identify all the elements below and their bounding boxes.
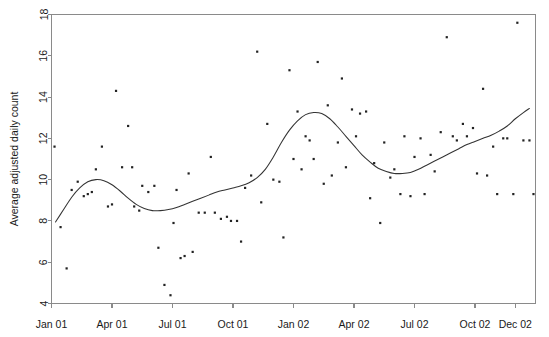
data-point: [419, 137, 421, 139]
data-point: [359, 112, 361, 114]
data-point: [288, 69, 290, 71]
y-tick-label: 4: [38, 300, 50, 306]
y-axis-title: Average adjusted daily count: [8, 92, 20, 227]
data-point: [305, 135, 307, 137]
x-axis: Jan 01Apr 01Jul 01Oct 01Jan 02Apr 02Jul …: [36, 304, 532, 330]
trend-curve: [56, 108, 530, 222]
data-point: [379, 222, 381, 224]
data-point: [133, 205, 135, 207]
data-point: [138, 210, 140, 212]
data-point: [153, 185, 155, 187]
x-tick-label: Jul 01: [158, 318, 186, 330]
data-point: [244, 187, 246, 189]
data-point: [331, 174, 333, 176]
data-point: [452, 135, 454, 137]
data-point: [53, 146, 55, 148]
data-point: [351, 108, 353, 110]
y-tick-label: 8: [38, 218, 50, 224]
x-tick-label: Jan 01: [36, 318, 68, 330]
data-point: [532, 193, 534, 195]
data-point: [226, 216, 228, 218]
x-tick-label: Dec 02: [499, 318, 532, 330]
plot-root: 4681012141618Average adjusted daily coun…: [8, 9, 536, 330]
data-point: [313, 158, 315, 160]
data-point: [59, 226, 61, 228]
data-point: [300, 168, 302, 170]
data-point: [272, 179, 274, 181]
data-point: [476, 172, 478, 174]
x-tick-label: Oct 02: [460, 318, 491, 330]
data-point: [87, 193, 89, 195]
data-point: [169, 294, 171, 296]
chart-figure: 4681012141618Average adjusted daily coun…: [0, 0, 549, 337]
data-point: [141, 185, 143, 187]
y-axis: 4681012141618: [38, 9, 52, 307]
data-point: [317, 61, 319, 63]
data-point: [292, 158, 294, 160]
data-point: [266, 123, 268, 125]
data-point: [210, 156, 212, 158]
data-point: [409, 195, 411, 197]
data-point: [337, 141, 339, 143]
data-point: [236, 220, 238, 222]
y-tick-label: 16: [38, 50, 50, 62]
data-point: [198, 212, 200, 214]
data-point: [512, 193, 514, 195]
data-point: [456, 139, 458, 141]
data-point: [260, 201, 262, 203]
data-points: [53, 22, 534, 297]
y-tick-label: 18: [38, 9, 50, 21]
data-point: [163, 284, 165, 286]
data-point: [434, 170, 436, 172]
data-point: [230, 220, 232, 222]
data-point: [369, 197, 371, 199]
data-point: [403, 135, 405, 137]
data-point: [115, 90, 117, 92]
data-point: [492, 146, 494, 148]
data-point: [413, 156, 415, 158]
data-point: [214, 212, 216, 214]
data-point: [323, 183, 325, 185]
data-point: [466, 135, 468, 137]
x-tick-label: Jul 02: [400, 318, 428, 330]
data-point: [399, 193, 401, 195]
data-point: [111, 203, 113, 205]
y-tick-label: 6: [38, 259, 50, 265]
data-point: [71, 189, 73, 191]
data-point: [188, 172, 190, 174]
data-point: [430, 154, 432, 156]
data-point: [327, 104, 329, 106]
data-point: [172, 222, 174, 224]
data-point: [482, 88, 484, 90]
data-point: [383, 141, 385, 143]
data-point: [184, 255, 186, 257]
data-point: [506, 137, 508, 139]
data-point: [131, 166, 133, 168]
y-tick-label: 10: [38, 174, 50, 186]
data-point: [147, 191, 149, 193]
data-point: [107, 205, 109, 207]
data-point: [175, 189, 177, 191]
data-point: [446, 36, 448, 38]
x-tick-label: Oct 01: [218, 318, 249, 330]
data-point: [472, 127, 474, 129]
data-point: [462, 123, 464, 125]
data-point: [83, 195, 85, 197]
data-point: [528, 139, 530, 141]
data-point: [522, 139, 524, 141]
data-point: [91, 191, 93, 193]
x-tick-label: Jan 02: [278, 318, 310, 330]
data-point: [355, 135, 357, 137]
data-point: [296, 110, 298, 112]
data-point: [440, 131, 442, 133]
data-point: [365, 110, 367, 112]
data-point: [486, 174, 488, 176]
x-tick-label: Apr 02: [339, 318, 370, 330]
data-point: [341, 77, 343, 79]
data-point: [77, 181, 79, 183]
data-point: [256, 51, 258, 53]
y-tick-label: 12: [38, 132, 50, 144]
data-point: [393, 168, 395, 170]
scatter-plot-svg: 4681012141618Average adjusted daily coun…: [0, 0, 549, 337]
data-point: [389, 176, 391, 178]
